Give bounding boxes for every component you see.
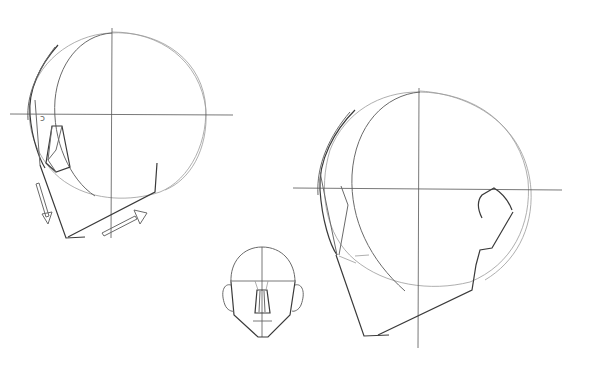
arrow-right-icon: [102, 210, 147, 236]
left-head-sketch: ↄ: [10, 28, 233, 238]
right-head-sketch: [293, 88, 562, 348]
sketch-svg: ↄ: [0, 0, 590, 366]
arrow-down-icon: [36, 183, 52, 224]
sketch-canvas: ↄ: [0, 0, 590, 366]
center-head-sketch: [223, 247, 303, 337]
annotation-glyph: ↄ: [40, 113, 45, 123]
